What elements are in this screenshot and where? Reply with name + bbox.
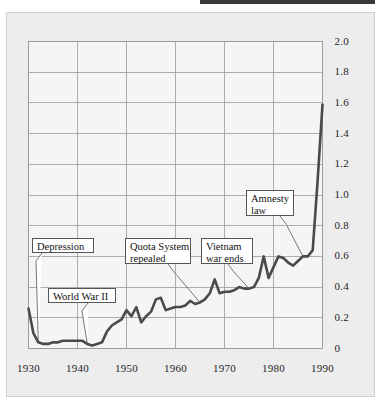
x-axis-tick-label: 1980: [254, 362, 294, 374]
chart-canvas: [0, 0, 381, 409]
y-axis-tick-label: 1.2: [335, 157, 349, 169]
annotation-callout-line: Vietnam: [206, 241, 248, 253]
annotation-callout-line: law: [251, 205, 289, 217]
annotation-callout: Quota Systemrepealed: [125, 238, 191, 264]
x-axis-tick-label: 1990: [303, 362, 343, 374]
y-axis-tick-label: 0: [335, 342, 341, 354]
annotation-callout-line: Depression: [37, 241, 89, 253]
y-axis-tick-label: 0.2: [335, 311, 349, 323]
annotation-callout: Amnestylaw: [246, 190, 294, 216]
annotation-callout-line: war ends: [206, 253, 248, 265]
y-axis-tick-label: 0.6: [335, 249, 349, 261]
annotation-callout: Depression: [32, 238, 94, 253]
y-axis-tick-label: 0.8: [335, 219, 349, 231]
annotation-callout-line: Amnesty: [251, 193, 289, 205]
x-axis-tick-label: 1930: [9, 362, 49, 374]
annotation-callout-line: Quota System: [130, 241, 186, 253]
y-axis-tick-label: 1.6: [335, 96, 349, 108]
x-axis-tick-label: 1940: [58, 362, 98, 374]
x-axis-tick-label: 1950: [107, 362, 147, 374]
y-axis-tick-label: 0.4: [335, 280, 349, 292]
y-axis-tick-label: 2.0: [335, 35, 349, 47]
annotation-callout: World War II: [48, 288, 116, 303]
annotation-callout-line: repealed: [130, 253, 186, 265]
annotation-callout: Vietnamwar ends: [201, 238, 253, 264]
annotation-callout-line: World War II: [53, 291, 111, 303]
y-axis-tick-label: 1.8: [335, 65, 349, 77]
x-axis-tick-label: 1970: [205, 362, 245, 374]
immigration-line-chart: 00.20.40.60.81.01.21.41.61.82.0193019401…: [0, 0, 381, 409]
x-axis-tick-label: 1960: [156, 362, 196, 374]
y-axis-tick-label: 1.4: [335, 127, 349, 139]
y-axis-tick-label: 1.0: [335, 188, 349, 200]
